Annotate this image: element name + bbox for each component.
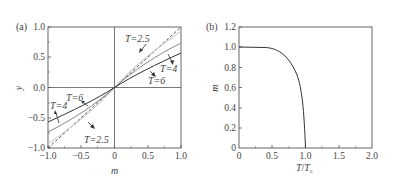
panel-a: (a) 1.0 0.5 0.0 −0.5 −1.0 −1.0 −0.5 0 bbox=[13, 21, 187, 176]
tick-label: −1.0 bbox=[39, 151, 56, 161]
annotation-t6-top: T=6 bbox=[148, 75, 165, 86]
annotation-t2-5-top: T=2.5 bbox=[125, 33, 150, 44]
annotation-t2-5-bottom: T=2.5 bbox=[84, 134, 109, 145]
plot-a-xlabel: m bbox=[111, 165, 118, 176]
plot-b-frame bbox=[239, 27, 372, 148]
tick-label: −0.5 bbox=[28, 113, 45, 123]
tick-label: 2.0 bbox=[366, 151, 378, 161]
tick-label: 1.0 bbox=[300, 151, 312, 161]
tick-label: 0.0 bbox=[33, 83, 45, 93]
panel-b-label: (b) bbox=[206, 21, 218, 33]
annotation-t4-top: T=4 bbox=[160, 63, 177, 74]
tick-label: 0.5 bbox=[33, 52, 45, 62]
annotation-t6-bottom: T=6 bbox=[66, 92, 83, 103]
curve-magnetization bbox=[239, 47, 306, 148]
figure: (a) 1.0 0.5 0.0 −0.5 −1.0 −1.0 −0.5 0 bbox=[0, 0, 394, 189]
tick-label: 0 bbox=[237, 151, 242, 161]
panel-a-label: (a) bbox=[16, 21, 27, 33]
tick-label: 1.0 bbox=[33, 22, 45, 32]
tick-label: 0.5 bbox=[142, 151, 154, 161]
tick-label: 1.0 bbox=[224, 42, 236, 52]
tick-label: −0.5 bbox=[72, 151, 89, 161]
plot-a-ylabel: y bbox=[13, 85, 24, 91]
tick-label: 1.5 bbox=[333, 151, 345, 161]
tick-label: 1.0 bbox=[175, 151, 187, 161]
plot-b-xlabel: T/Tc bbox=[296, 162, 313, 174]
plot-b-ylabel: m bbox=[209, 84, 220, 91]
tick-label: 0.4 bbox=[224, 103, 236, 113]
tick-label: 0.8 bbox=[224, 63, 236, 73]
panel-b: (b) 1.2 1.0 0.8 0.6 0.4 0.2 0 0 0.5 1.0 … bbox=[206, 21, 378, 174]
tick-label: 0 bbox=[231, 143, 236, 153]
tick-label: 0 bbox=[112, 151, 117, 161]
annotation-t4-bottom: T=4 bbox=[50, 100, 67, 111]
tick-label: 0.5 bbox=[266, 151, 278, 161]
tick-label: 0.6 bbox=[224, 83, 236, 93]
tick-label: 1.2 bbox=[224, 22, 236, 32]
tick-label: 0.2 bbox=[224, 123, 236, 133]
